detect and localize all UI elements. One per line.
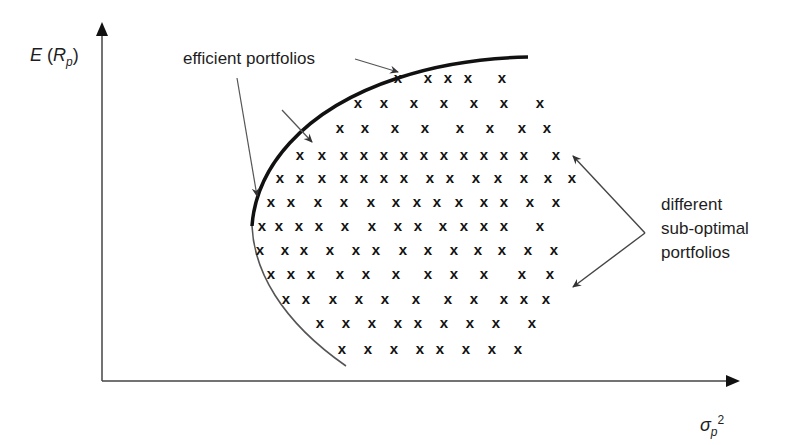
portfolio-marker: x [416,341,424,356]
portfolio-marker: x [361,120,369,135]
portfolio-marker: x [444,70,452,85]
portfolio-marker: x [296,147,304,162]
portfolio-marker: x [392,266,400,281]
portfolio-marker: x [400,170,408,185]
portfolio-marker: x [470,291,478,306]
portfolio-marker: x [440,315,448,330]
portfolio-marker: x [380,147,388,162]
portfolio-marker: x [462,341,470,356]
portfolio-marker: x [326,242,334,257]
portfolio-marker: x [486,120,494,135]
portfolio-marker: x [494,170,502,185]
portfolio-marker: x [550,242,558,257]
portfolio-marker: x [514,341,522,356]
portfolio-marker: x [318,147,326,162]
portfolio-marker: x [400,147,408,162]
efficient-arrow-1 [237,78,257,196]
y-axis-arrow-icon [96,22,108,36]
portfolio-marker: x [424,70,432,85]
portfolio-marker: x [498,70,506,85]
portfolio-marker: x [391,120,399,135]
portfolio-marker: x [362,266,370,281]
portfolio-marker: x [546,266,554,281]
portfolio-marker: x [440,95,448,110]
portfolio-marker: x [412,291,420,306]
portfolio-marker: x [460,218,468,233]
portfolio-marker: x [341,218,349,233]
portfolio-marker: x [295,218,303,233]
portfolio-marker: x [480,266,488,281]
suboptimal-arrow-2 [573,233,645,287]
portfolio-marker: x [439,218,447,233]
portfolio-marker: x [380,170,388,185]
portfolio-marker: x [436,341,444,356]
portfolio-marker: x [392,194,400,209]
portfolio-marker: x [472,170,480,185]
x-axis-arrow-icon [726,375,740,387]
portfolio-marker: x [399,242,407,257]
portfolio-marker: x [413,194,421,209]
portfolio-marker: x [314,194,322,209]
portfolio-marker: x [338,341,346,356]
portfolio-marker: x [414,315,422,330]
portfolio-marker: x [364,341,372,356]
y-axis-label: E (Rp) [30,45,79,73]
portfolio-marker: x [498,242,506,257]
efficient-arrow-3 [355,59,398,72]
portfolio-marker: x [500,218,508,233]
portfolio-marker: x [568,170,576,185]
portfolio-marker: x [360,170,368,185]
portfolio-marker: x [500,147,508,162]
portfolio-marker: x [360,147,368,162]
portfolio-marker: x [470,95,478,110]
portfolio-marker: x [466,315,474,330]
portfolio-marker: x [302,291,310,306]
portfolio-marker: x [355,291,363,306]
portfolio-marker: x [526,194,534,209]
portfolio-marker: x [520,170,528,185]
portfolio-marker: x [536,218,544,233]
portfolio-marker: x [340,194,348,209]
portfolio-marker: x [300,242,308,257]
portfolio-marker: x [528,315,536,330]
portfolio-marker: x [307,266,315,281]
portfolio-marker: x [318,170,326,185]
portfolio-marker: x [287,194,295,209]
portfolio-marker: x [426,170,434,185]
portfolio-marker: x [258,218,266,233]
portfolio-marker: x [394,70,402,85]
portfolio-marker: x [276,170,284,185]
portfolio-marker: x [544,170,552,185]
portfolio-marker: x [267,194,275,209]
portfolio-marker: x [414,218,422,233]
portfolio-marker: x [474,242,482,257]
portfolio-marker: x [464,70,472,85]
portfolio-marker: x [480,218,488,233]
suboptimal-label-line-1: different [661,193,749,217]
portfolio-marker: x [450,266,458,281]
portfolio-marker: x [543,120,551,135]
portfolio-marker: x [520,291,528,306]
portfolio-marker: x [480,194,488,209]
portfolio-marker: x [552,194,560,209]
portfolio-marker: x [368,218,376,233]
portfolio-marker: x [450,242,458,257]
suboptimal-portfolios-label: different sub-optimal portfolios [661,193,749,265]
portfolio-marker: x [256,242,264,257]
portfolio-marker: x [394,218,402,233]
portfolio-marker: x [352,242,360,257]
suboptimal-label-line-2: sub-optimal [661,217,749,241]
suboptimal-label-line-3: portfolios [661,241,749,265]
portfolio-marker: x [536,95,544,110]
portfolio-marker: x [456,120,464,135]
portfolio-marker: x [281,242,289,257]
portfolio-marker: x [460,147,468,162]
portfolio-marker: x [524,242,532,257]
portfolio-marker: x [480,147,488,162]
portfolio-marker: x [444,291,452,306]
portfolio-marker: x [455,194,463,209]
portfolio-marker: x [368,315,376,330]
portfolio-marker: x [394,315,402,330]
portfolio-marker: x [518,266,526,281]
portfolio-marker: x [492,315,500,330]
